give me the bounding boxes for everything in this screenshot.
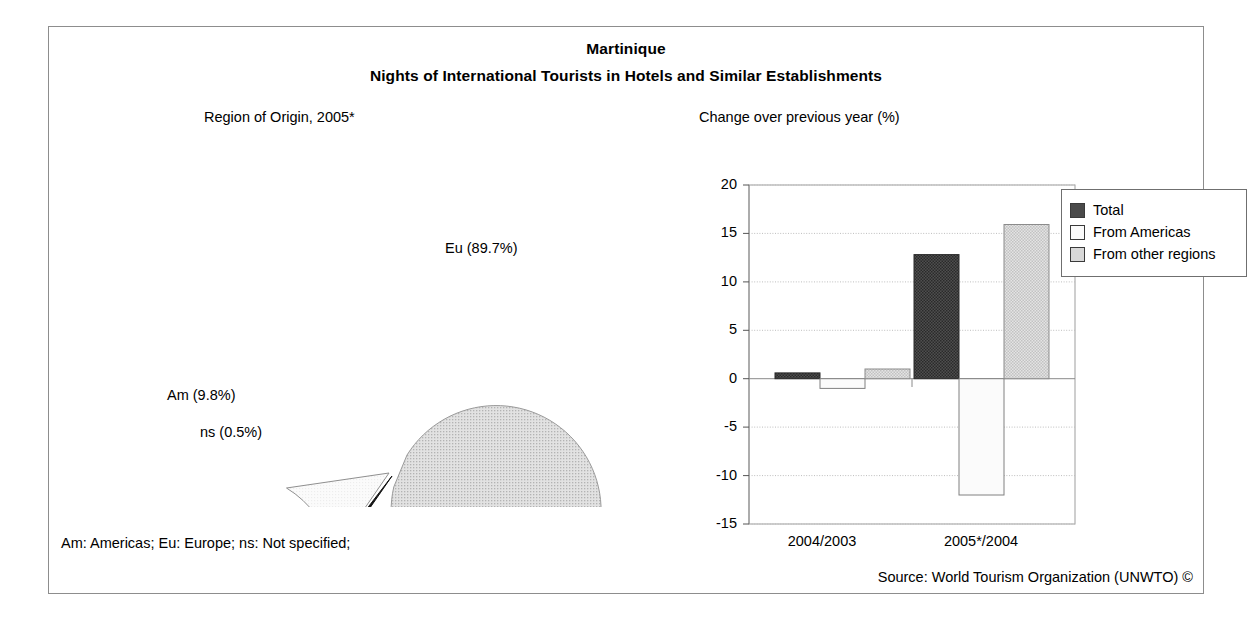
legend-swatch-total-icon bbox=[1070, 203, 1085, 218]
legend-item-from-other-regions: From other regions bbox=[1070, 246, 1238, 262]
pie-label-ns: ns (0.5%) bbox=[200, 424, 262, 440]
bar-chart: 20 15 10 5 0 -5 -10 -15 2004/2003 2005*/… bbox=[649, 127, 1205, 557]
legend-label-from-americas: From Americas bbox=[1093, 224, 1191, 240]
pie-slice-eu bbox=[391, 406, 601, 507]
y-tick-label-neg10: -10 bbox=[681, 467, 737, 483]
y-tick-label-15: 15 bbox=[681, 224, 737, 240]
source-note: Source: World Tourism Organization (UNWT… bbox=[878, 569, 1193, 585]
legend-swatch-from-other-regions-icon bbox=[1070, 247, 1085, 262]
x-tick-label-2005-2004: 2005*/2004 bbox=[921, 533, 1041, 549]
y-tick-label-10: 10 bbox=[681, 273, 737, 289]
y-tick-label-neg15: -15 bbox=[681, 515, 737, 531]
y-tick-label-20: 20 bbox=[681, 176, 737, 192]
bar-chart-caption: Change over previous year (%) bbox=[699, 109, 900, 125]
bar-2004-2003-total bbox=[775, 373, 820, 379]
pie-chart: Eu (89.7%) Am (9.8%) ns (0.5%) bbox=[49, 127, 649, 507]
bar-2004-2003-from-americas bbox=[820, 379, 865, 389]
bar-2005-2004-total bbox=[914, 255, 959, 379]
legend-label-from-other-regions: From other regions bbox=[1093, 246, 1216, 262]
figure-title: Martinique bbox=[49, 40, 1203, 58]
chart-legend: Total From Americas From other regions bbox=[1061, 189, 1247, 277]
y-tick-label-0: 0 bbox=[681, 370, 737, 386]
legend-swatch-from-americas-icon bbox=[1070, 225, 1085, 240]
legend-item-total: Total bbox=[1070, 202, 1238, 218]
y-tick-marks bbox=[743, 185, 749, 524]
legend-item-from-americas: From Americas bbox=[1070, 224, 1238, 240]
x-tick-label-2004-2003: 2004/2003 bbox=[762, 533, 882, 549]
legend-label-total: Total bbox=[1093, 202, 1124, 218]
y-tick-label-5: 5 bbox=[681, 321, 737, 337]
bar-2005-2004-from-other-regions bbox=[1004, 225, 1049, 379]
pie-label-eu: Eu (89.7%) bbox=[445, 240, 518, 256]
bar-2004-2003-from-other-regions bbox=[865, 369, 910, 379]
figure-frame: Martinique Nights of International Touri… bbox=[48, 26, 1204, 594]
figure-subtitle: Nights of International Tourists in Hote… bbox=[49, 67, 1203, 85]
pie-chart-caption: Region of Origin, 2005* bbox=[204, 109, 355, 125]
bar-2005-2004-from-americas bbox=[959, 379, 1004, 495]
abbreviation-note: Am: Americas; Eu: Europe; ns: Not specif… bbox=[61, 535, 350, 551]
pie-label-am: Am (9.8%) bbox=[167, 387, 236, 403]
pie-chart-svg bbox=[49, 127, 649, 507]
y-tick-label-neg5: -5 bbox=[681, 418, 737, 434]
